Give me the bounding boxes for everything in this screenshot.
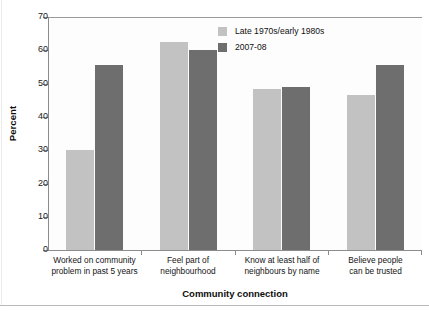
y-tick-label-50: 50	[10, 79, 48, 88]
x-category-label-0: Worked on community problem in past 5 ye…	[48, 255, 141, 277]
x-category-label-0-line2: problem in past 5 years	[48, 266, 141, 277]
bar-series0-cat0	[66, 150, 94, 250]
bar-chart-figure: 70 60 50 40 30 20 10 0 Percent Worked on	[0, 0, 429, 311]
y-tick-label-10: 10	[10, 212, 48, 221]
bar-series1-cat2	[282, 87, 310, 250]
bar-series1-cat3	[376, 65, 404, 250]
page-bottom-rule	[0, 305, 429, 306]
legend-item-0: Late 1970s/early 1980s	[218, 26, 324, 36]
legend: Late 1970s/early 1980s 2007-08	[218, 26, 324, 58]
bar-series0-cat1	[160, 42, 188, 250]
x-category-label-1-line1: Feel part of	[141, 255, 235, 266]
bar-series1-cat0	[95, 65, 123, 250]
y-tick-label-20: 20	[10, 179, 48, 188]
bar-series0-cat2	[253, 89, 281, 250]
bar-series1-cat1	[189, 50, 217, 250]
legend-item-1: 2007-08	[218, 42, 324, 52]
x-category-label-3-line1: Believe people	[329, 255, 422, 266]
x-category-label-3: Believe people can be trusted	[329, 255, 422, 277]
x-axis-title: Community connection	[48, 288, 422, 299]
x-category-label-1: Feel part of neighbourhood	[141, 255, 235, 277]
x-category-label-2-line2: neighbours by name	[235, 266, 329, 277]
y-tick-label-0: 0	[10, 245, 48, 254]
legend-swatch-0	[218, 27, 227, 36]
x-category-label-2-line1: Know at least half of	[235, 255, 329, 266]
y-axis-title: Percent	[7, 89, 18, 159]
x-category-label-1-line2: neighbourhood	[141, 266, 235, 277]
y-tick-label-60: 60	[10, 45, 48, 54]
x-category-label-2: Know at least half of neighbours by name	[235, 255, 329, 277]
x-category-label-0-line1: Worked on community	[48, 255, 141, 266]
x-axis-category-labels: Worked on community problem in past 5 ye…	[48, 255, 422, 285]
bar-series0-cat3	[347, 95, 375, 250]
legend-label-0: Late 1970s/early 1980s	[235, 26, 324, 36]
x-category-label-3-line2: can be trusted	[329, 266, 422, 277]
y-tick-label-70: 70	[10, 12, 48, 21]
legend-swatch-1	[218, 43, 227, 52]
legend-label-1: 2007-08	[235, 42, 267, 52]
